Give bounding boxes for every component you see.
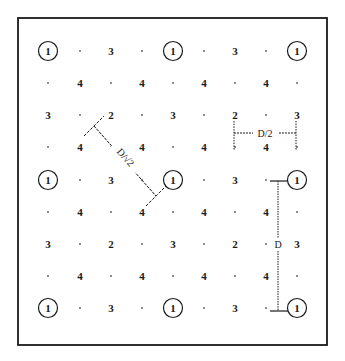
lattice-dot	[141, 114, 143, 116]
site-label-2: 2	[232, 109, 238, 121]
lattice-dot	[203, 307, 205, 309]
lattice-dot	[79, 307, 81, 309]
diagonal-tick-bottom	[146, 186, 166, 206]
site-label-1: 1	[170, 45, 176, 57]
site-label-4: 4	[77, 206, 83, 218]
site-label-3: 3	[45, 109, 51, 121]
lattice-dot	[203, 114, 205, 116]
site-label-4: 4	[263, 141, 269, 153]
site-label-2: 2	[232, 238, 238, 250]
site-label-3: 3	[294, 109, 300, 121]
diagonal-measurement: D/√2	[84, 116, 166, 206]
lattice-dot	[234, 211, 236, 213]
site-label-4: 4	[77, 77, 83, 89]
site-label-4: 4	[201, 270, 207, 282]
lattice-dot	[234, 82, 236, 84]
lattice-dot	[172, 211, 174, 213]
site-label-3: 3	[170, 238, 176, 250]
lattice-dot	[234, 275, 236, 277]
site-label-4: 4	[139, 270, 145, 282]
lattice-dot	[172, 82, 174, 84]
lattice-dot	[296, 211, 298, 213]
site-label-1: 1	[294, 302, 300, 314]
site-label-4: 4	[77, 270, 83, 282]
site-label-1: 1	[294, 45, 300, 57]
full-distance-measurement: D	[270, 181, 288, 311]
site-label-3: 3	[232, 302, 238, 314]
site-label-1: 1	[170, 174, 176, 186]
lattice-dot	[172, 146, 174, 148]
site-label-1: 1	[45, 174, 51, 186]
site-label-4: 4	[263, 77, 269, 89]
lattice-dot	[296, 82, 298, 84]
lattice-dot	[203, 50, 205, 52]
lattice-dot	[79, 179, 81, 181]
lattice-dot	[265, 243, 267, 245]
site-label-4: 4	[201, 77, 207, 89]
site-label-4: 4	[263, 270, 269, 282]
site-label-4: 4	[201, 206, 207, 218]
lattice-dot	[203, 243, 205, 245]
site-label-2: 2	[108, 238, 114, 250]
site-label-3: 3	[108, 45, 114, 57]
lattice-dot	[110, 211, 112, 213]
lattice-dot	[265, 179, 267, 181]
lattice-dot	[47, 211, 49, 213]
lattice-dot	[110, 82, 112, 84]
site-label-1: 1	[45, 45, 51, 57]
lattice-dot	[110, 275, 112, 277]
half-distance-label: D/2	[258, 128, 273, 139]
lattice-dot	[265, 50, 267, 52]
site-label-3: 3	[294, 238, 300, 250]
lattice-diagram: 1313144443232344441313144443232344441313…	[0, 0, 345, 361]
site-label-3: 3	[108, 302, 114, 314]
site-label-4: 4	[139, 141, 145, 153]
site-label-1: 1	[294, 174, 300, 186]
lattice-dot	[265, 114, 267, 116]
grid-points: 1313144443232344441313144443232344441313…	[39, 42, 307, 318]
site-label-3: 3	[232, 174, 238, 186]
lattice-dot	[203, 179, 205, 181]
lattice-dot	[47, 146, 49, 148]
site-label-3: 3	[232, 45, 238, 57]
site-label-1: 1	[170, 302, 176, 314]
lattice-dot	[47, 275, 49, 277]
lattice-dot	[141, 307, 143, 309]
lattice-dot	[141, 50, 143, 52]
full-distance-label: D	[274, 239, 281, 250]
site-label-4: 4	[139, 206, 145, 218]
site-label-2: 2	[108, 109, 114, 121]
site-label-3: 3	[45, 238, 51, 250]
lattice-dot	[79, 50, 81, 52]
lattice-dot	[79, 243, 81, 245]
lattice-dot	[172, 275, 174, 277]
lattice-dot	[47, 82, 49, 84]
site-label-3: 3	[170, 109, 176, 121]
site-label-1: 1	[45, 302, 51, 314]
site-label-4: 4	[263, 206, 269, 218]
lattice-dot	[79, 114, 81, 116]
lattice-dot	[141, 243, 143, 245]
site-label-3: 3	[108, 174, 114, 186]
site-label-4: 4	[139, 77, 145, 89]
lattice-dot	[265, 307, 267, 309]
site-label-4: 4	[77, 141, 83, 153]
lattice-dot	[296, 275, 298, 277]
site-label-4: 4	[201, 141, 207, 153]
